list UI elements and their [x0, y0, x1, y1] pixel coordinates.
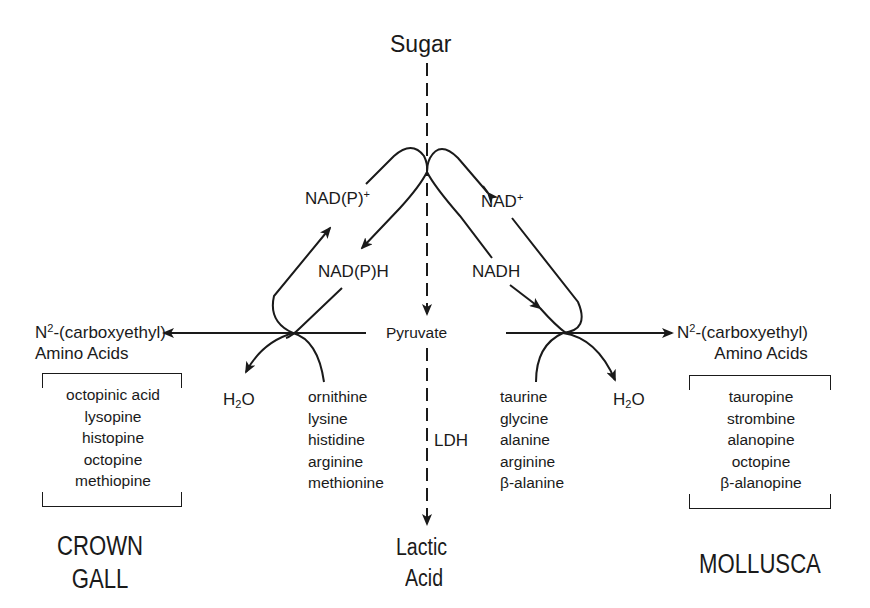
list-item: arginine: [500, 451, 564, 473]
pathway-arrows: [0, 0, 870, 608]
right-product-line2: Amino Acids: [677, 343, 808, 364]
left-aminoacid-in: [293, 333, 324, 382]
right-product-line1: N2-(carboxyethyl): [677, 322, 808, 343]
list-item: glycine: [500, 408, 564, 430]
list-item: histopine: [42, 427, 184, 449]
list-item: octopinic acid: [42, 384, 184, 406]
list-item: alanopine: [689, 429, 833, 451]
opine-pathway-diagram: Sugar Pyruvate LDH Lactic Acid NAD(P)+ N…: [0, 0, 870, 608]
crown-gall-line2: GALL: [51, 563, 149, 596]
list-item: arginine: [308, 451, 384, 473]
crown-gall-amino-acid-list: ornithine lysine histidine arginine meth…: [308, 386, 384, 494]
nad-oxidized-label: NAD+: [481, 193, 523, 210]
list-item: octopine: [689, 451, 833, 473]
right-water-label: H2O: [613, 391, 645, 408]
right-loop-bottom: [540, 308, 566, 333]
nad-oxidized-base: NAD: [481, 192, 517, 211]
list-item: lysine: [308, 408, 384, 430]
nadh-label: NADH: [472, 263, 520, 280]
left-nadph-arrow: [362, 172, 427, 248]
mollusca-group-label: MOLLUSCA: [690, 548, 829, 581]
crown-gall-group-label: CROWN GALL: [51, 530, 149, 596]
lactic-acid-label-line2: Acid: [405, 567, 443, 590]
crown-gall-opine-list: octopinic acid lysopine histopine octopi…: [42, 384, 184, 492]
list-item: tauropine: [689, 386, 833, 408]
left-loop-lower: [286, 288, 342, 338]
right-water-arrow: [563, 333, 615, 380]
left-product-line2: Amino Acids: [35, 343, 166, 364]
nadp-oxidized-label: NAD(P)+: [305, 190, 370, 207]
list-item: alanine: [500, 429, 564, 451]
left-loop-top: [366, 148, 427, 184]
list-item: taurine: [500, 386, 564, 408]
left-product-label: N2-(carboxyethyl) Amino Acids: [35, 322, 166, 364]
right-product-label: N2-(carboxyethyl) Amino Acids: [677, 322, 808, 364]
list-item: β-alanopine: [689, 472, 833, 494]
list-item: strombine: [689, 408, 833, 430]
mollusca-opine-list: tauropine strombine alanopine octopine β…: [689, 386, 833, 494]
ldh-label: LDH: [434, 432, 468, 449]
nadph-label: NAD(P)H: [318, 263, 389, 280]
pyruvate-label: Pyruvate: [386, 325, 447, 341]
crown-gall-line1: CROWN: [51, 530, 149, 563]
lactic-acid-label-line1: Lactic: [396, 536, 447, 559]
left-water-arrow: [246, 333, 293, 372]
list-item: octopine: [42, 449, 184, 471]
list-item: lysopine: [42, 406, 184, 428]
right-nadh-arrow: [510, 285, 540, 308]
right-aminoacid-in: [536, 333, 563, 382]
list-item: methionine: [308, 472, 384, 494]
list-item: histidine: [308, 429, 384, 451]
left-product-line1: N2-(carboxyethyl): [35, 322, 166, 343]
crown-gall-bracket-bottom: [42, 492, 182, 507]
list-item: methiopine: [42, 470, 184, 492]
left-water-label: H2O: [223, 391, 255, 408]
list-item: β-alanine: [500, 472, 564, 494]
sugar-label: Sugar: [390, 33, 451, 56]
mollusca-bracket-bottom: [689, 494, 831, 509]
list-item: ornithine: [308, 386, 384, 408]
nadp-oxidized-charge: +: [364, 188, 370, 200]
nad-oxidized-charge: +: [517, 191, 523, 203]
nadp-oxidized-base: NAD(P): [305, 189, 364, 208]
mollusca-amino-acid-list: taurine glycine alanine arginine β-alani…: [500, 386, 564, 494]
